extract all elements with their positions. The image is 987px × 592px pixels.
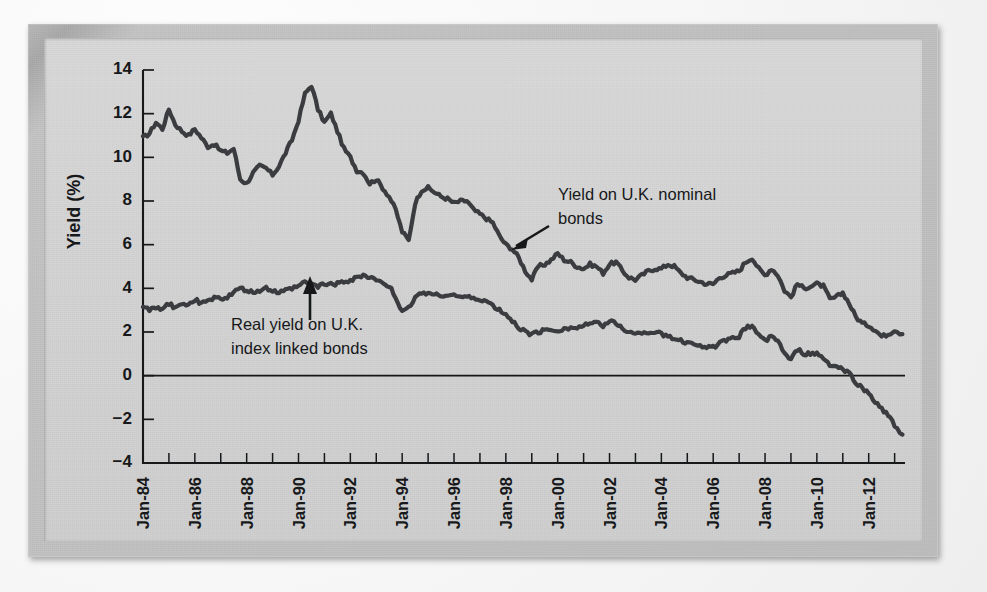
x-tick-label: Jan-84	[134, 476, 152, 529]
y-tick-label: 0	[123, 365, 132, 384]
page-background: 14121086420−2−4 Jan-84Jan-86Jan-88Jan-90…	[0, 0, 987, 592]
x-tick-label: Jan-86	[186, 477, 204, 529]
y-tick-label: −4	[113, 452, 133, 471]
y-axis-ticks-group: 14121086420−2−4	[113, 59, 154, 471]
x-tick-label: Jan-94	[393, 476, 411, 529]
x-tick-label: Jan-10	[808, 477, 826, 529]
annotation-line-2: index linked bonds	[231, 339, 368, 357]
yield-chart-svg: 14121086420−2−4 Jan-84Jan-86Jan-88Jan-90…	[28, 24, 938, 557]
x-tick-label: Jan-04	[652, 476, 670, 529]
x-tick-label: Jan-92	[341, 477, 359, 529]
chart-plot-area: 14121086420−2−4 Jan-84Jan-86Jan-88Jan-90…	[28, 24, 938, 557]
x-axis-minor-ticks	[143, 453, 895, 463]
x-tick-label: Jan-02	[601, 477, 619, 529]
x-tick-label: Jan-00	[549, 477, 567, 529]
y-tick-label: 6	[123, 234, 132, 253]
y-axis-title: Yield (%)	[64, 174, 84, 249]
y-tick-label: 14	[113, 59, 132, 78]
y-tick-label: 12	[113, 103, 132, 122]
y-tick-label: −2	[113, 409, 132, 428]
x-tick-label: Jan-88	[238, 477, 256, 529]
x-axis-ticks-group: Jan-84Jan-86Jan-88Jan-90Jan-92Jan-94Jan-…	[134, 476, 878, 529]
annotation-line-1: Yield on U.K. nominal	[558, 185, 716, 203]
x-tick-label: Jan-12	[860, 477, 878, 529]
annotation-line-1: Real yield on U.K.	[231, 315, 363, 333]
annotation-nominal: Yield on U.K. nominalbonds	[511, 185, 716, 250]
annotation-line-2: bonds	[558, 209, 603, 227]
x-tick-label: Jan-08	[756, 477, 774, 529]
x-tick-label: Jan-90	[290, 477, 308, 529]
data-series-group	[143, 87, 902, 435]
y-tick-label: 4	[123, 278, 133, 297]
series-line-nominal	[143, 87, 902, 337]
x-tick-label: Jan-96	[445, 477, 463, 529]
y-tick-label: 10	[113, 147, 132, 166]
x-tick-label: Jan-06	[704, 477, 722, 529]
y-tick-label: 2	[123, 321, 132, 340]
x-tick-label: Jan-98	[497, 477, 515, 529]
annotation-index-linked: Real yield on U.K.index linked bonds	[231, 276, 368, 357]
y-tick-label: 8	[123, 190, 132, 209]
